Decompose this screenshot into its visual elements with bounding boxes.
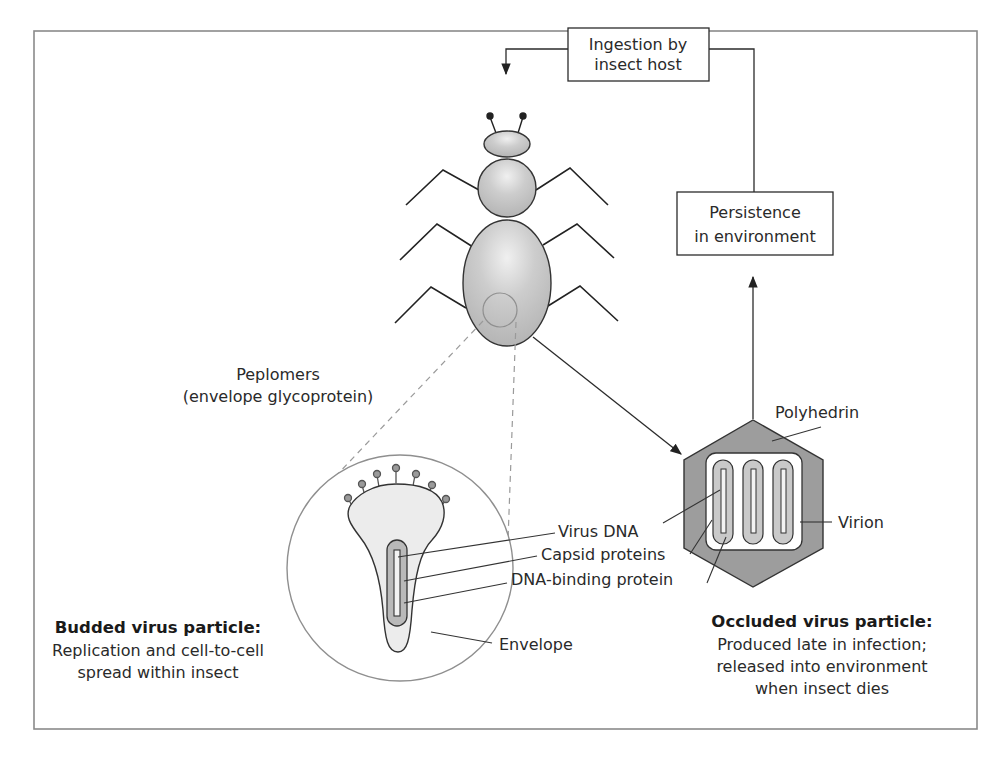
occluded-line3: when insect dies xyxy=(755,679,889,698)
persistence-line2: in environment xyxy=(694,227,816,246)
occluded-line1: Produced late in infection; xyxy=(717,635,927,654)
envelope-label: Envelope xyxy=(499,635,573,654)
budded-title: Budded virus particle: xyxy=(55,618,261,637)
occluded-title: Occluded virus particle: xyxy=(711,612,932,631)
diagram-canvas: Ingestion by insect host Persistence in … xyxy=(0,0,1005,762)
occlusion-body-icon xyxy=(684,420,823,587)
insect-abdomen xyxy=(463,220,551,346)
insect-antennae xyxy=(487,113,526,133)
ingestion-line2: insect host xyxy=(594,55,681,74)
budded-caption: Budded virus particle: Replication and c… xyxy=(52,618,264,682)
virions xyxy=(713,460,793,544)
virion-label: Virion xyxy=(838,513,884,532)
peplomers-sublabel: (envelope glycoprotein) xyxy=(183,387,374,406)
persistence-line1: Persistence xyxy=(709,203,801,222)
occluded-line2: released into environment xyxy=(716,657,927,676)
insect-head xyxy=(484,131,530,157)
virus-dna-label: Virus DNA xyxy=(558,522,638,541)
capsid-proteins-label: Capsid proteins xyxy=(541,545,665,564)
insect-icon xyxy=(395,113,618,346)
persistence-box: Persistence in environment xyxy=(677,192,833,255)
arrow-persistence-to-ingestion xyxy=(709,49,754,192)
polyhedrin-label: Polyhedrin xyxy=(775,403,859,422)
budded-line1: Replication and cell-to-cell xyxy=(52,641,264,660)
ingestion-line1: Ingestion by xyxy=(589,35,688,54)
arrow-insect-to-polyhedron xyxy=(533,337,681,454)
ingestion-box: Ingestion by insect host xyxy=(568,28,709,81)
peplomers-label: Peplomers xyxy=(236,365,320,384)
virus-dna-core xyxy=(394,550,400,616)
budded-virus-zoom xyxy=(287,455,513,681)
insect-thorax xyxy=(478,159,536,217)
occluded-caption: Occluded virus particle: Produced late i… xyxy=(711,612,932,698)
arrow-ingestion-to-insect xyxy=(506,49,568,74)
dna-binding-protein-label: DNA-binding protein xyxy=(511,570,673,589)
budded-line2: spread within insect xyxy=(77,663,238,682)
